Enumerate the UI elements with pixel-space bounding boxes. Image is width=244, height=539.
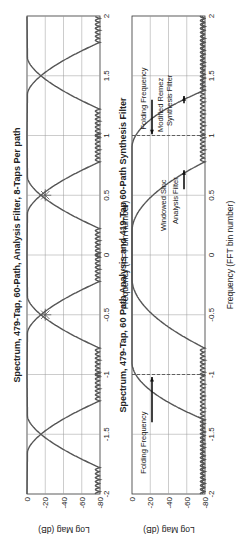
annotation-label: Folding Frequency xyxy=(139,67,148,129)
x-tick-label: 0.5 xyxy=(207,189,216,201)
annotation-label: Windowed Sinc xyxy=(159,179,168,231)
annotation-label: Folding Frequency xyxy=(139,411,148,473)
y-tick-label: -40 xyxy=(165,496,174,508)
x-tick-label: -0.5 xyxy=(207,307,216,321)
x-tick-label: 0.5 xyxy=(102,189,111,201)
annotation-label: Analysis Filter xyxy=(171,177,180,224)
annotation-label: Synthesis Filter xyxy=(165,74,174,126)
plot2-ylabel: Log Mag (dB) xyxy=(143,525,195,535)
x-tick-label: 1.5 xyxy=(102,70,111,82)
plot1-title: Spectrum, 479-Tap, 60-Path, Analysis Fil… xyxy=(12,128,22,383)
plot1-ylabel: Log Mag (dB) xyxy=(38,525,90,535)
annotation-label: Modified Remez xyxy=(156,77,165,131)
x-tick-label: 2 xyxy=(207,13,216,18)
x-tick-label: 1.5 xyxy=(207,70,216,82)
x-tick-label: -0.5 xyxy=(102,307,111,321)
x-tick-label: 1 xyxy=(207,133,216,138)
y-tick-label: -80 xyxy=(96,496,105,508)
plot1: -2-1.5-1-0.500.511.52 0-20-40-60-80 xyxy=(23,13,111,508)
y-tick-label: -40 xyxy=(60,496,69,508)
y-tick-label: -20 xyxy=(146,496,155,508)
x-tick-label: -1 xyxy=(207,370,216,378)
y-tick-label: -60 xyxy=(78,496,87,508)
x-tick-label: -1.5 xyxy=(102,427,111,441)
y-tick-label: -20 xyxy=(41,496,50,508)
x-tick-label: 2 xyxy=(102,13,111,18)
x-tick-label: 1 xyxy=(102,133,111,138)
plot2-xlabel: Frequency (FFT bin number) xyxy=(225,201,235,310)
y-tick-label: 0 xyxy=(23,496,32,501)
x-tick-label: 0 xyxy=(102,252,111,257)
x-tick-label: 0 xyxy=(207,252,216,257)
rotated-figure: Spectrum, 479-Tap, 60-Path, Analysis Fil… xyxy=(0,0,244,539)
x-tick-label: -1 xyxy=(102,370,111,378)
y-tick-label: -80 xyxy=(201,496,210,508)
y-tick-label: 0 xyxy=(128,496,137,501)
y-tick-label: -60 xyxy=(183,496,192,508)
x-tick-label: -1.5 xyxy=(207,427,216,441)
plot2-title: Spectrum, 479-Tap, 60 Path Analysis and … xyxy=(118,97,128,412)
plot2: -2-1.5-1-0.500.511.52 0-20-40-60-80 Fold… xyxy=(128,13,216,508)
